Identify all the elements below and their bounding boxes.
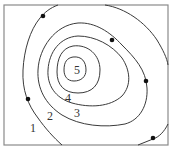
contour-label-3: 3 [74, 106, 80, 120]
marker-dot [151, 136, 156, 141]
contour-line-top-right [105, 5, 168, 65]
marker-dot [144, 79, 149, 84]
contour-label-4: 4 [65, 91, 71, 105]
contour-diagram: 1 2 3 4 5 [0, 0, 177, 150]
contour-line-3 [48, 36, 129, 106]
contour-label-2: 2 [47, 109, 53, 123]
contour-line-1 [23, 5, 62, 145]
contour-line-bottom-right [138, 124, 168, 145]
marker-dot [26, 97, 31, 102]
contour-label-5: 5 [74, 63, 80, 77]
marker-dot [41, 14, 46, 19]
contour-label-1: 1 [30, 121, 36, 135]
marker-dot [110, 38, 115, 43]
